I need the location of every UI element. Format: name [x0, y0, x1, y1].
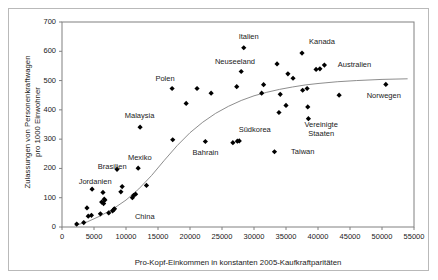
data-point	[272, 149, 277, 154]
data-point	[285, 71, 290, 76]
data-point	[234, 84, 239, 89]
data-point	[299, 50, 304, 55]
data-point	[118, 189, 123, 194]
screenshot-root: Zulassungen von Personenkraftwagen pro 1…	[0, 0, 438, 280]
y-axis-tick-label: 300	[30, 134, 56, 143]
point-label: Taiwan	[291, 147, 317, 156]
data-point	[184, 101, 189, 106]
data-point	[300, 88, 305, 93]
point-label: China	[135, 212, 159, 221]
point-label: Mexiko	[128, 153, 154, 162]
data-point	[322, 62, 327, 67]
y-axis-tick-label: 200	[30, 163, 56, 172]
point-label: Kanada	[309, 37, 335, 46]
data-point	[84, 205, 89, 210]
point-label: Norwegen	[367, 91, 401, 100]
y-axis-tick-label: 700	[30, 17, 56, 26]
point-label: Polen	[155, 74, 179, 83]
data-point	[290, 76, 295, 81]
data-point	[337, 93, 342, 98]
data-point	[100, 190, 105, 195]
data-point	[74, 221, 79, 226]
data-point	[259, 91, 264, 96]
data-point	[261, 82, 266, 87]
data-point	[239, 69, 244, 74]
data-point	[317, 66, 322, 71]
point-label: Südkorea	[239, 125, 273, 134]
point-label: Bahrain	[193, 148, 223, 157]
data-point	[170, 137, 175, 142]
data-point	[203, 139, 208, 144]
point-label: Brasilien	[98, 162, 137, 171]
data-point	[278, 92, 283, 97]
data-point	[313, 67, 318, 72]
data-point	[305, 104, 310, 109]
data-point	[383, 82, 388, 87]
data-point	[209, 91, 214, 96]
scatter-chart: Zulassungen von Personenkraftwagen pro 1…	[0, 0, 438, 280]
y-axis-title-line2: pro 1000 Einwohner	[33, 87, 42, 157]
point-label: Australien	[338, 60, 381, 69]
data-point	[305, 86, 310, 91]
data-point	[283, 103, 288, 108]
data-point	[144, 183, 149, 188]
data-point	[89, 187, 94, 192]
point-label: Jordanien	[79, 177, 118, 186]
point-label: Malaysia	[125, 111, 159, 120]
data-point	[120, 184, 125, 189]
data-point	[194, 86, 199, 91]
y-axis-tick-label: 0	[30, 222, 56, 231]
point-label: Neuseeland	[215, 57, 258, 66]
data-point	[137, 125, 142, 130]
data-point	[81, 220, 86, 225]
data-point	[274, 61, 279, 66]
data-point	[230, 140, 235, 145]
data-point	[98, 211, 103, 216]
x-axis-tick-label: 55000	[394, 232, 434, 241]
data-point	[241, 45, 246, 50]
data-point	[276, 110, 281, 115]
x-axis-title: Pro-Kopf-Einkommen in konstanten 2005-Ka…	[62, 258, 414, 267]
point-label: Italien	[239, 32, 269, 41]
y-axis-tick-label: 400	[30, 105, 56, 114]
point-label: Vereinigte Staaten	[295, 120, 347, 138]
y-axis-tick-label: 100	[30, 193, 56, 202]
data-point	[169, 86, 174, 91]
y-axis-tick-label: 500	[30, 76, 56, 85]
y-axis-tick-label: 600	[30, 46, 56, 55]
trend-line	[75, 79, 408, 226]
